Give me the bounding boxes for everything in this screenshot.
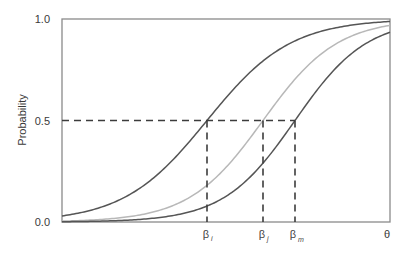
beta-i-symbol: β [203, 228, 209, 240]
y-tick-0-5: 0.5 [35, 115, 50, 127]
beta-m-symbol: β [290, 228, 296, 240]
beta-i-subscript: i [211, 235, 213, 242]
beta-m-subscript: m [298, 236, 304, 243]
y-tick-0-0: 0.0 [35, 216, 50, 228]
y-axis-title: Probability [16, 94, 28, 146]
beta-i-label: β i [203, 228, 213, 242]
beta-j-subscript: j [266, 235, 269, 243]
x-axis-title-theta: θ [384, 228, 390, 240]
curve-item-i [62, 21, 390, 215]
beta-j-label: β j [259, 228, 269, 243]
curve-item-m [62, 32, 390, 221]
beta-j-symbol: β [259, 228, 265, 240]
curve-item-j [62, 25, 390, 221]
y-tick-1-0: 1.0 [35, 13, 50, 25]
dashed-guides [62, 121, 295, 223]
curves-group [62, 21, 390, 221]
item-characteristic-curves-chart: 1.0 0.5 0.0 Probability β i β j β m θ [0, 0, 412, 254]
beta-m-label: β m [290, 228, 304, 243]
